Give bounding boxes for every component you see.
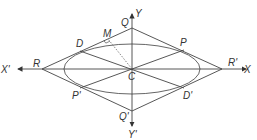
perpendicular-CM	[108, 39, 132, 69]
label-M: M	[103, 28, 112, 39]
tangent-Q-prime-R	[42, 69, 132, 111]
label-X-prime: X'	[0, 64, 11, 75]
label-X: X	[243, 64, 251, 75]
label-Y: Y	[135, 8, 143, 19]
label-Y-prime: Y'	[128, 129, 138, 140]
label-R-prime: R'	[228, 57, 238, 68]
ellipse-diagram: X X' Y Y' C Q Q' R R' D P P' D' M	[0, 0, 257, 140]
label-D: D	[76, 38, 83, 49]
label-D-prime: D'	[183, 90, 193, 101]
label-C: C	[128, 71, 136, 82]
label-Q: Q	[121, 17, 129, 28]
label-Q-prime: Q'	[119, 111, 130, 122]
label-R: R	[33, 58, 40, 69]
label-P: P	[180, 37, 187, 48]
tangent-RQ	[42, 28, 132, 69]
tangent-QR-prime	[132, 28, 222, 69]
diagram-canvas: X X' Y Y' C Q Q' R R' D P P' D' M	[0, 0, 257, 140]
tangent-R-prime-Q-prime	[132, 69, 222, 111]
right-angle-marker	[104, 41, 110, 43]
label-P-prime: P'	[72, 90, 82, 101]
